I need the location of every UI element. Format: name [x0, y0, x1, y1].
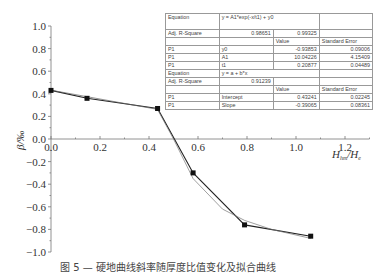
table-cell: 0.99325: [273, 30, 319, 38]
table-cell: P1: [166, 94, 220, 102]
table-cell: P1: [166, 102, 220, 110]
table-row: Equationy = a + b*x: [166, 70, 373, 78]
table-cell: [319, 30, 372, 38]
table-cell: 0.02245: [319, 94, 372, 102]
table-cell: Adj. R-Square: [166, 78, 220, 86]
table-cell: Standard Error: [319, 38, 372, 46]
table-cell: Adj. R-Square: [166, 30, 220, 38]
series-line: [51, 90, 158, 109]
table-row: Adj. R-Square0.91239: [166, 78, 373, 86]
data-point-marker: [242, 222, 247, 227]
table-cell: 4.15409: [319, 54, 372, 62]
table-cell: t1: [219, 62, 273, 70]
series-line: [158, 110, 311, 239]
table-cell: 0.08361: [319, 102, 372, 110]
data-point-marker: [308, 234, 313, 239]
table-cell: P1: [166, 62, 220, 70]
table-row: P1y0-0.938530.09006: [166, 46, 373, 54]
table-cell: A1: [219, 54, 273, 62]
y-tick-label: 0.4: [32, 88, 46, 100]
x-tick-label: 1.0: [289, 141, 303, 153]
table-cell: 10.04226: [273, 54, 319, 62]
table-cell: -0.93853: [273, 46, 319, 54]
x-tick-label: 0.2: [93, 141, 107, 153]
data-markers: [49, 88, 314, 239]
table-cell: [319, 14, 372, 30]
data-point-marker: [191, 170, 196, 175]
y-tick-label: 0.2: [32, 110, 46, 122]
y-tick-label: −0.4: [26, 178, 46, 190]
table-cell: 0.20877: [273, 62, 319, 70]
table-row: ValueStandard Error: [166, 86, 373, 94]
table-row: P1Slope-0.390650.08361: [166, 102, 373, 110]
data-point-marker: [155, 106, 160, 111]
table-row: Equationy = A1*exp(-x/t1) + y0: [166, 14, 373, 30]
table-row: Adj. R-Square0.986510.99325: [166, 30, 373, 38]
y-axis-title: β/‰: [14, 130, 26, 151]
table-cell: [166, 86, 220, 94]
data-point-marker: [85, 96, 90, 101]
x-tick-label: 0.6: [191, 141, 205, 153]
table-cell: 0.43241: [273, 94, 319, 102]
table-cell: P1: [166, 54, 220, 62]
table-cell: Value: [273, 38, 319, 46]
table-cell: [219, 86, 273, 94]
table-cell: -0.39065: [273, 102, 319, 110]
figure-caption: 图 5 — 硬地曲线斜率随厚度比值变化及拟合曲线: [60, 259, 276, 274]
table-row: ValueStandard Error: [166, 38, 373, 46]
table-cell: Equation: [166, 14, 220, 30]
table-cell: [319, 78, 372, 86]
x-tick-label: 0.4: [142, 141, 156, 153]
y-tick-label: −0.6: [26, 201, 46, 213]
table-cell: y = A1*exp(-x/t1) + y0: [219, 14, 319, 30]
table-cell: 0.09006: [319, 46, 372, 54]
series-line: [51, 90, 311, 236]
table-row: P1t10.208770.04489: [166, 62, 373, 70]
table-cell: 0.98651: [219, 30, 273, 38]
table-cell: Value: [273, 86, 319, 94]
table-cell: 0.91239: [219, 78, 273, 86]
table-cell: Intercept: [219, 94, 273, 102]
y-tick-label: −1.0: [26, 246, 46, 258]
table-cell: [319, 70, 372, 78]
y-tick-label: −0.8: [26, 223, 46, 235]
table-cell: y0: [219, 46, 273, 54]
x-tick-label: 0.8: [240, 141, 254, 153]
y-tick-label: 0.6: [32, 65, 46, 77]
table-row: P1A110.042264.15409: [166, 54, 373, 62]
table-row: P1Intercept0.432410.02245: [166, 94, 373, 102]
y-tick-label: 0.8: [32, 43, 46, 55]
data-lines: [51, 90, 311, 238]
x-tick-label: 0.0: [44, 141, 58, 153]
table-cell: Standard Error: [319, 86, 372, 94]
y-tick-label: −0.2: [26, 156, 46, 168]
table-cell: [273, 78, 319, 86]
table-cell: y = a + b*x: [219, 70, 319, 78]
table-cell: Equation: [166, 70, 220, 78]
y-tick-label: 1.0: [32, 20, 46, 32]
data-point-marker: [49, 88, 54, 93]
fit-results-table: Equationy = A1*exp(-x/t1) + y0Adj. R-Squ…: [165, 13, 373, 110]
table-cell: P1: [166, 46, 220, 54]
table-cell: [219, 38, 273, 46]
table-cell: [166, 38, 220, 46]
table-cell: Slope: [219, 102, 273, 110]
table-cell: 0.04489: [319, 62, 372, 70]
